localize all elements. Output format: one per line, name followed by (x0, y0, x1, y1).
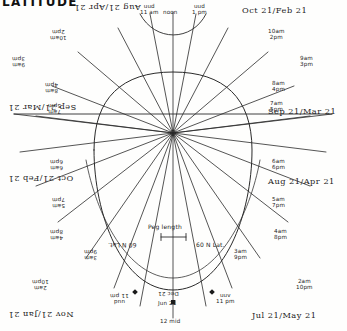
sundial-diagram: LATITUDE uud 11 am noon uud 1 pm Oct 21/… (0, 0, 347, 331)
hour-label-left-5-bottom: 7pm (52, 196, 65, 202)
hour-label-left-5-top: 5am (52, 202, 65, 208)
season-label-top-left: Aug 21/Apr 21 (74, 5, 141, 11)
hour-label-left-0-bottom: 2pm (50, 28, 67, 34)
hour-label-1pm: uud 1 pm (192, 3, 207, 16)
hour-label-left-4-bottom: 6pm (50, 158, 63, 164)
hour-label-right-7-bottom: 9pm (234, 254, 247, 260)
hour-label-right-5-bottom: 7pm (272, 202, 285, 208)
peg-length-label: Peg length (148, 224, 182, 230)
hour-label-left-1-bottom: 3pm (12, 55, 25, 61)
hour-label-right-1-bottom: 3pm (300, 61, 313, 67)
hour-label-left-3: 7am 5pm (48, 102, 61, 115)
hour-label-right-6-bottom: 8pm (274, 234, 287, 240)
hour-label-left-0: 10am 2pm (50, 28, 67, 41)
hour-label-right-0: 10am 2pm (268, 28, 285, 41)
hour-label-left-2: 8am 4pm (45, 81, 58, 94)
hour-line-1am (140, 133, 173, 306)
season-label-top-right: Oct 21/Feb 21 (242, 7, 307, 13)
page-title: LATITUDE (2, 0, 78, 9)
hour-label-right-7: 3am 9pm (234, 248, 247, 261)
hour-label-right-2: 8am 4pm (272, 80, 285, 93)
hour-line-3pm (173, 52, 268, 133)
season-label-right-lower: Aug 21/Apr 21 (268, 178, 335, 184)
hour-label-left-7-bottom: 9pm (84, 248, 97, 254)
bottom-label-midnight: 12 mid (160, 318, 180, 324)
hour-label-right-1: 9am 3pm (300, 55, 313, 68)
hour-label-right-3: 7am 5pm (270, 100, 283, 113)
hour-label-left-6: 4am 8pm (50, 228, 63, 241)
hour-line-3am (86, 133, 173, 258)
hour-label-noon: noon (163, 9, 178, 15)
bottom-label-11pm-left-text: 11 pm (110, 292, 129, 298)
hour-label-left-4-top: 6am (50, 164, 63, 170)
hour-label-left-1: 9am 3pm (12, 55, 25, 68)
hour-label-left-4: 6am 6pm (50, 158, 63, 171)
hour-label-right-2-bottom: 4pm (272, 86, 285, 92)
hour-label-left-0-top: 10am (50, 34, 67, 40)
hour-line-6am (20, 133, 173, 152)
hour-label-right-8-bottom: 10pm (296, 284, 313, 290)
season-label-left-lower: Oct 21/Feb 21 (8, 176, 73, 182)
season-label-bottom-right: Jul 21/May 21 (252, 312, 316, 318)
hour-label-left-5: 5am 7pm (52, 196, 65, 209)
hour-label-left-2-top: 8am (45, 87, 58, 93)
hour-label-left-8: 2am 10pm (32, 278, 49, 291)
hour-line-2pm (173, 28, 228, 133)
hour-label-right-4-bottom: 6pm (272, 164, 285, 170)
season-label-bottom-left: Nov 21/Jan 21 (8, 312, 73, 318)
latitude-label: 60 N Lat. (196, 242, 225, 248)
peg-length-bracket (161, 234, 186, 241)
bottom-label-dec: Dec 21 (158, 291, 179, 297)
hour-label-right-4: 6am 6pm (272, 158, 285, 171)
bottom-label-11pm-right: uuv 11 pm (216, 292, 235, 305)
season-label-left-upper: Sep 21/Mar 21 (8, 105, 76, 111)
bottom-label-11pm-right-text: 11 pm (216, 298, 235, 304)
hour-label-left-1-top: 9am (12, 61, 25, 67)
hour-line-11pm (173, 133, 206, 306)
hour-label-left-7-top: 3am (84, 254, 97, 260)
hour-label-right-3-bottom: 5pm (270, 106, 283, 112)
hour-label-left-3-top: 7am (48, 108, 61, 114)
hour-line-6pm (173, 133, 326, 152)
hour-label-1pm-text: 1 pm (192, 9, 207, 15)
hour-label-left-2-bottom: 4pm (45, 81, 58, 87)
hour-label-left-6-bottom: 8pm (50, 228, 63, 234)
bottom-label-11pm-left: uud 11 pm (110, 292, 129, 305)
node-dot-11pm-right (209, 289, 215, 295)
hour-label-right-6: 4am 8pm (274, 228, 287, 241)
hour-label-11am-text: 11 am (140, 9, 159, 15)
hour-label-left-8-bottom: 10pm (32, 278, 49, 284)
hour-label-left-3-bottom: 5pm (48, 102, 61, 108)
hour-label-left-8-top: 2am (32, 284, 49, 290)
hour-label-right-5: 5am 7pm (272, 196, 285, 209)
hour-label-left-6-top: 4am (50, 234, 63, 240)
bottom-label-jun: Jun 21 (158, 300, 177, 306)
hour-label-left-7: 3am 9pm (84, 248, 97, 261)
hour-line-9am (78, 52, 173, 133)
latitude-label-mirrored: 60 N Lat. (108, 242, 137, 248)
hour-label-right-0-bottom: 2pm (268, 34, 285, 40)
node-dot-11pm-left (132, 289, 138, 295)
bottom-label-11pm-left-sup: uud (110, 298, 129, 304)
hour-label-11am: uud 11 am (140, 3, 159, 16)
hour-line-10am (118, 28, 173, 133)
hour-label-right-8: 2am 10pm (296, 278, 313, 291)
